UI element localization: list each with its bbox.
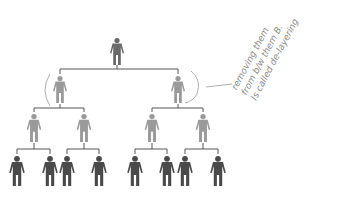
person-icon-level1 <box>171 76 185 103</box>
person-icon-leaf <box>9 156 25 186</box>
person-icon-level2 <box>27 114 42 142</box>
person-icon-leaf <box>159 156 175 186</box>
person-icon-leaf <box>42 156 58 186</box>
person-icon-leaf <box>210 156 226 186</box>
person-icon-leaf <box>127 156 143 186</box>
person-icon-level2 <box>145 114 160 142</box>
person-icon-level2 <box>196 114 211 142</box>
person-icon-leaf <box>59 156 75 186</box>
person-icon-root <box>110 38 124 65</box>
person-icon-level1 <box>53 76 67 103</box>
person-icon-leaf <box>177 156 193 186</box>
diagram-canvas: removing them from b/w them B. Is called… <box>0 0 340 199</box>
parenthesis-left <box>45 74 50 106</box>
person-icon-level2 <box>77 114 92 142</box>
person-icon-leaf <box>91 156 107 186</box>
parenthesis-right <box>185 71 199 103</box>
